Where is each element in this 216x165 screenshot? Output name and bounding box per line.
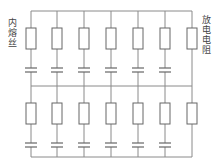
internal-fuse: [79, 103, 89, 124]
internal-fuse: [106, 103, 116, 124]
internal-fuse: [26, 103, 36, 124]
internal-fuse: [106, 28, 116, 49]
discharge-resistor: [187, 103, 197, 124]
internal-fuse: [160, 28, 170, 49]
internal-fuse: [52, 28, 62, 49]
internal-fuse: [133, 28, 143, 49]
discharge-resistor: [187, 28, 197, 49]
internal-fuse: [79, 28, 89, 49]
internal-fuse: [52, 103, 62, 124]
internal-fuse: [26, 28, 36, 49]
circuit-diagram: [0, 0, 216, 165]
discharge-resistor-label: 放电电阻: [201, 15, 211, 55]
internal-fuse-label: 内熔丝: [7, 18, 17, 48]
internal-fuse: [133, 103, 143, 124]
internal-fuse: [160, 103, 170, 124]
